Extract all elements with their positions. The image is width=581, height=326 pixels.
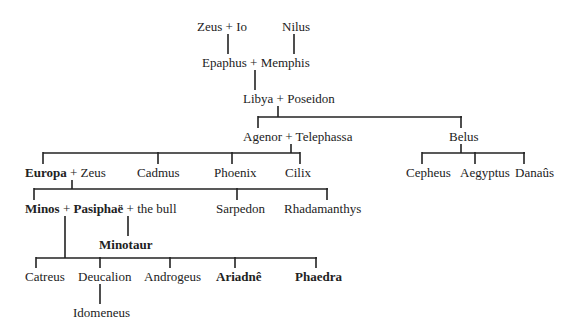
node-danaus: Danaûs <box>515 166 554 180</box>
node-agenor-telephassa: Agenor + Telephassa <box>243 130 352 144</box>
plus-sign: + <box>226 19 233 34</box>
name-europa: Europa <box>25 165 67 180</box>
node-idomeneus: Idomeneus <box>73 306 130 320</box>
name-libya: Libya <box>243 91 273 106</box>
node-sarpedon: Sarpedon <box>216 202 265 216</box>
node-epaphus-memphis: Epaphus + Memphis <box>202 56 310 70</box>
plus-sign: + <box>250 55 257 70</box>
node-phaedra: Phaedra <box>295 270 342 284</box>
name-epaphus: Epaphus <box>202 55 247 70</box>
node-minotaur: Minotaur <box>99 238 152 252</box>
plus-sign: + <box>63 201 70 216</box>
plus-sign: + <box>70 165 77 180</box>
name-memphis: Memphis <box>261 55 310 70</box>
plus-sign: + <box>277 91 284 106</box>
name-agenor: Agenor <box>243 129 282 144</box>
name-io: Io <box>236 19 247 34</box>
node-belus: Belus <box>449 130 479 144</box>
node-cepheus: Cepheus <box>406 166 451 180</box>
node-rhadamanthys: Rhadamanthys <box>284 202 361 216</box>
name-pasiphae: Pasiphaë <box>74 201 124 216</box>
plus-sign: + <box>127 201 134 216</box>
name-minos: Minos <box>25 201 60 216</box>
node-zeus-io: Zeus + Io <box>197 20 247 34</box>
node-cilix: Cilix <box>285 166 311 180</box>
node-nilus: Nilus <box>282 20 310 34</box>
name-poseidon: Poseidon <box>287 91 335 106</box>
node-minos-pasiphae-bull: Minos + Pasiphaë + the bull <box>25 202 177 216</box>
name-zeus: Zeus <box>81 165 106 180</box>
name-zeus: Zeus <box>197 19 222 34</box>
name-telephassa: Telephassa <box>296 129 353 144</box>
plus-sign: + <box>285 129 292 144</box>
node-ariadne: Ariadnê <box>216 270 262 284</box>
name-the-bull: the bull <box>137 201 176 216</box>
node-catreus: Catreus <box>25 270 65 284</box>
node-deucalion: Deucalion <box>78 270 131 284</box>
node-aegyptus: Aegyptus <box>460 166 510 180</box>
node-phoenix: Phoenix <box>214 166 257 180</box>
node-libya-poseidon: Libya + Poseidon <box>243 92 335 106</box>
node-androgeus: Androgeus <box>144 270 201 284</box>
node-cadmus: Cadmus <box>137 166 180 180</box>
node-europa-zeus: Europa + Zeus <box>25 166 106 180</box>
